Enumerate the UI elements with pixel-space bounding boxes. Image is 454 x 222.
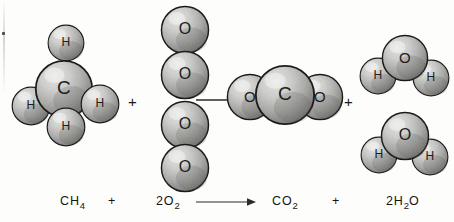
atom-o: O <box>381 34 429 82</box>
atom-o: O <box>380 111 430 161</box>
atom-o: O <box>160 50 210 100</box>
atom-h: H <box>47 24 85 62</box>
atom-o: O <box>160 5 210 55</box>
atom-h: H <box>46 107 86 147</box>
equation-plus-left: + <box>108 194 116 208</box>
product-carbon-dioxide: CO2 <box>272 194 298 211</box>
atom-o: O <box>160 143 210 193</box>
reactant-methane: CH4 <box>60 194 85 211</box>
atom-c: C <box>254 64 316 126</box>
chemical-equation-row: CH4+2O2CO2+2H2O <box>0 186 454 222</box>
reaction-diagram: HHCHHOOOOOOCHHOHHO ++ CH4+2O2CO2+2H2O <box>0 0 454 222</box>
diagram-plus-products: + <box>344 94 353 109</box>
reaction-arrow-equation <box>196 194 256 206</box>
equation-plus-right: + <box>332 194 340 208</box>
atom-h: H <box>80 84 120 124</box>
diagram-plus-reactants: + <box>128 94 137 109</box>
product-water: 2H2O <box>386 194 420 211</box>
reactant-oxygen: 2O2 <box>156 194 180 211</box>
